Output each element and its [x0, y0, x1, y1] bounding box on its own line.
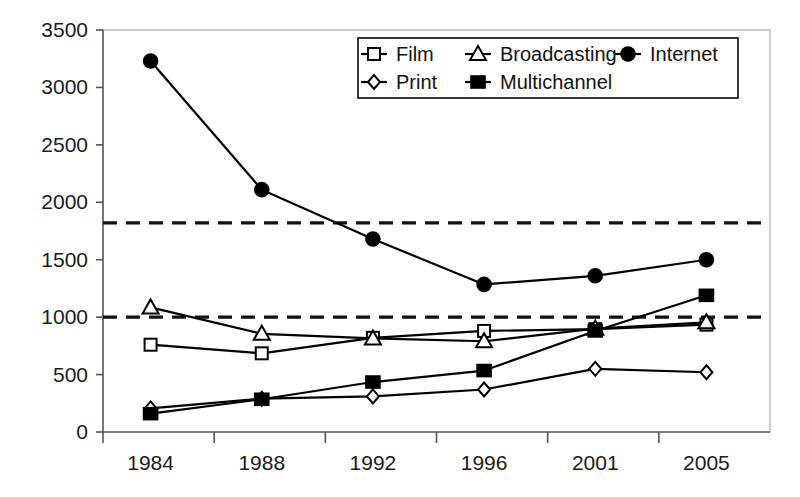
- data-point-multichannel-2005: [699, 289, 713, 301]
- series-line-multichannel: [151, 295, 707, 413]
- series-print: [145, 362, 713, 416]
- y-axis: 0500100015002000250030003500: [41, 18, 103, 443]
- data-point-multichannel-1988: [255, 393, 269, 405]
- x-tick-label: 2001: [572, 451, 619, 474]
- legend-label-broadcasting: Broadcasting: [500, 43, 617, 65]
- data-point-print-2001: [589, 362, 601, 376]
- data-point-multichannel-1992: [366, 376, 380, 388]
- series-multichannel: [144, 289, 714, 419]
- y-tick-label: 2000: [41, 190, 88, 213]
- chart-container: 0500100015002000250030003500 19841988199…: [0, 0, 800, 497]
- x-tick-label: 2005: [683, 451, 730, 474]
- legend-label-internet: Internet: [650, 43, 718, 65]
- x-tick-label: 1988: [238, 451, 285, 474]
- legend-label-multichannel: Multichannel: [500, 71, 612, 93]
- data-point-multichannel-1996: [477, 365, 491, 377]
- reference-lines: [103, 223, 770, 317]
- data-point-internet-2001: [588, 269, 602, 283]
- series-line-broadcasting: [151, 307, 707, 341]
- legend-label-film: Film: [396, 43, 434, 65]
- data-point-internet-1984: [144, 54, 158, 68]
- legend-marker-film-icon: [368, 48, 380, 60]
- line-chart: 0500100015002000250030003500 19841988199…: [0, 0, 800, 497]
- data-point-broadcasting-1984: [143, 299, 159, 313]
- series-broadcasting: [143, 299, 715, 347]
- legend-marker-internet-icon: [621, 47, 635, 61]
- y-tick-label: 0: [76, 420, 88, 443]
- chart-legend[interactable]: FilmBroadcastingInternetPrintMultichanne…: [358, 38, 738, 98]
- y-tick-label: 1500: [41, 248, 88, 271]
- data-point-internet-1992: [366, 232, 380, 246]
- y-tick-label: 2500: [41, 133, 88, 156]
- data-point-multichannel-1984: [144, 408, 158, 420]
- x-tick-label: 1996: [461, 451, 508, 474]
- data-point-print-1996: [478, 383, 490, 397]
- x-axis: 198419881992199620012005: [103, 432, 730, 474]
- data-point-internet-2005: [699, 253, 713, 267]
- y-tick-label: 500: [53, 363, 88, 386]
- x-tick-label: 1984: [127, 451, 174, 474]
- legend-label-print: Print: [396, 71, 438, 93]
- data-point-internet-1996: [477, 277, 491, 291]
- y-tick-label: 3500: [41, 18, 88, 41]
- data-point-print-1992: [367, 389, 379, 403]
- data-point-multichannel-2001: [588, 325, 602, 337]
- data-point-internet-1988: [255, 183, 269, 197]
- x-tick-label: 1992: [350, 451, 397, 474]
- data-point-print-2005: [700, 365, 712, 379]
- y-tick-label: 1000: [41, 305, 88, 328]
- y-tick-label: 3000: [41, 75, 88, 98]
- data-series: [143, 54, 715, 420]
- data-point-film-1988: [256, 347, 268, 359]
- data-point-film-1984: [145, 339, 157, 351]
- legend-marker-multichannel-icon: [471, 76, 485, 88]
